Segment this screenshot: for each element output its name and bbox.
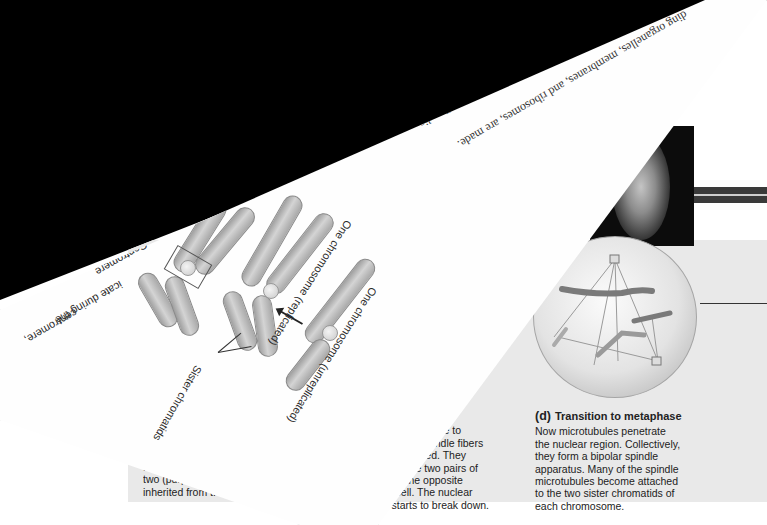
caption-transition-to-metaphase: (d)Transition to metaphase Now microtubu… [535, 410, 707, 512]
centromere [180, 260, 196, 276]
caption-line: they form a bipolar spindle [535, 450, 707, 462]
stage-arrow-line [700, 303, 767, 304]
label-fragment: centromere, [22, 306, 80, 347]
caption-line: Now microtubules penetrate [535, 425, 707, 437]
caption-line: to the two sister chromatids of [535, 487, 707, 499]
centromere [263, 283, 279, 299]
rotated-body-line: ase (stages [333, 128, 385, 166]
caption-line: each chromosome. [535, 500, 707, 512]
rotated-body-line: ll during separation of the cytoplasm. G… [387, 18, 565, 129]
caption-line: the nuclear region. Collectively, [535, 438, 707, 450]
rotated-body-line: ding organelles, membranes, and ribosome… [455, 8, 690, 152]
panel-letter: (d) [535, 409, 551, 423]
caption-transition-title-text: Transition to metaphase [555, 410, 682, 422]
photo-scene: → [0, 0, 767, 525]
caption-line: apparatus. Many of the spindle [535, 463, 707, 475]
rotated-body-line: kes [319, 138, 340, 158]
label-sister-chromatids: Sister chromatids [150, 363, 205, 444]
caption-transition-title: (d)Transition to metaphase [535, 410, 707, 422]
caption-line: microtubules become attached [535, 475, 707, 487]
label-centromere: Centromere [93, 238, 150, 279]
